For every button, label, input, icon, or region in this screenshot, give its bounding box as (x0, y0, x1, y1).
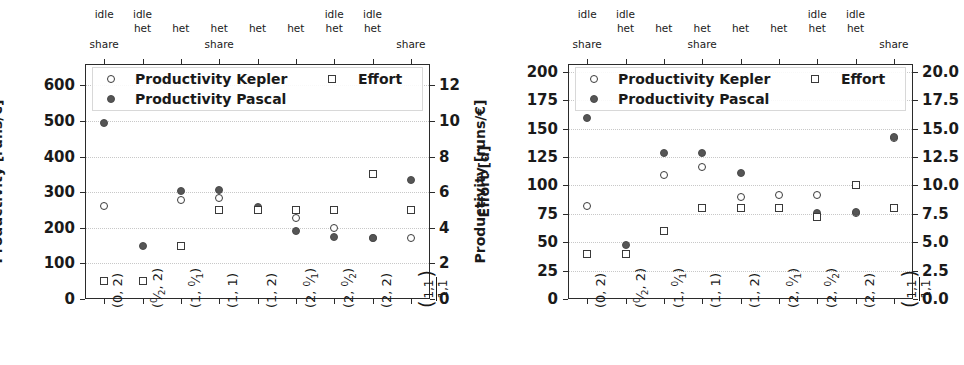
gridline (86, 192, 429, 193)
y-axis-tick (80, 121, 85, 122)
y2-axis-tick (430, 157, 435, 158)
legend-marker-kepler (107, 75, 115, 83)
top-annotation-het: het (826, 22, 886, 34)
gridline (569, 271, 912, 272)
x-axis-tick-label: (0, 2) (593, 273, 608, 308)
x-axis-tick-label: (0⁄2, 2) (632, 268, 650, 308)
marker-pascal (177, 187, 185, 195)
x-axis-tick (817, 299, 818, 304)
y2-axis-tick-label: 6 (439, 183, 449, 201)
x-axis-tick (258, 299, 259, 304)
x-axis-top-tick (219, 59, 220, 64)
x-axis-tick-label: (1, 2) (747, 273, 762, 308)
x-axis-tick (779, 299, 780, 304)
top-annotation-idle: idle (826, 8, 886, 20)
x-axis-top-tick (817, 59, 818, 64)
x-axis-tick-label: (1, 1) (708, 273, 723, 308)
x-axis-tick (143, 299, 144, 304)
y-axis-tick-label: 175 (506, 91, 558, 109)
y-axis-title: Productivity [runs/€] (0, 64, 5, 299)
y2-axis-tick (913, 72, 918, 73)
marker-effort (852, 181, 860, 189)
x-axis-top-tick (334, 59, 335, 64)
y-axis-tick-label: 100 (506, 176, 558, 194)
x-axis-tick-label: (2, 2) (379, 273, 394, 308)
top-annotation-share: share (557, 38, 617, 50)
y-axis-tick (563, 242, 568, 243)
y2-axis-tick (430, 192, 435, 193)
marker-effort (660, 227, 668, 235)
y-axis-tick-label: 200 (23, 219, 75, 237)
y2-axis-tick (913, 185, 918, 186)
marker-pascal (852, 208, 860, 216)
y-axis-tick-label: 200 (506, 63, 558, 81)
x-axis-top-tick (779, 59, 780, 64)
x-axis-top-tick (143, 59, 144, 64)
figure-root: 0100200300400500600024681012Productivity… (0, 0, 964, 365)
marker-effort (292, 206, 300, 214)
x-axis-top-tick (181, 59, 182, 64)
marker-effort (775, 204, 783, 212)
y2-axis-tick-label: 8 (439, 148, 449, 166)
x-axis-tick (626, 299, 627, 304)
legend-label-kepler: Productivity Kepler (135, 71, 288, 87)
marker-pascal (407, 176, 415, 184)
gridline (86, 121, 429, 122)
x-axis-tick (894, 299, 895, 304)
x-axis-top-tick (856, 59, 857, 64)
gridline (569, 129, 912, 130)
y2-axis-tick-label: 7.5 (922, 205, 949, 223)
x-axis-tick-label: (0, 2) (110, 273, 125, 308)
legend-marker-pascal (590, 95, 598, 103)
marker-effort (622, 250, 630, 258)
y-axis-tick-label: 0 (506, 290, 558, 308)
y-axis-tick (80, 299, 85, 300)
x-axis-tick-label: (2, 0⁄1) (785, 268, 803, 308)
marker-kepler (177, 196, 185, 204)
y2-axis-tick (913, 242, 918, 243)
top-annotation-share: share (672, 38, 732, 50)
y2-axis-tick-label: 5.0 (922, 233, 949, 251)
x-axis-tick (334, 299, 335, 304)
x-axis-tick (373, 299, 374, 304)
marker-pascal (330, 233, 338, 241)
legend-marker-kepler (590, 75, 598, 83)
x-axis-tick (587, 299, 588, 304)
marker-pascal (737, 169, 745, 177)
marker-effort (177, 242, 185, 250)
x-axis-tick-label: (1,11,1) (417, 270, 449, 308)
y2-axis-tick-label: 10.0 (922, 176, 959, 194)
y-axis-title: Productivity [runs/€] (472, 64, 488, 299)
x-axis-top-tick (626, 59, 627, 64)
marker-pascal (139, 242, 147, 250)
y-axis-tick (563, 72, 568, 73)
x-axis-tick-label: (1, 0⁄1) (670, 268, 688, 308)
y-axis-tick-label: 50 (506, 233, 558, 251)
top-annotation-het: het (343, 22, 403, 34)
x-axis-tick (219, 299, 220, 304)
marker-effort (139, 277, 147, 285)
x-axis-top-tick (296, 59, 297, 64)
x-axis-tick (702, 299, 703, 304)
y2-axis-tick (430, 85, 435, 86)
y2-axis-tick-label: 17.5 (922, 91, 959, 109)
top-annotation-idle: idle (343, 8, 403, 20)
x-axis-tick-label: (2, 0⁄2) (823, 268, 841, 308)
x-axis-tick (411, 299, 412, 304)
y2-axis-tick-label: 12.5 (922, 148, 959, 166)
legend-label-pascal: Productivity Pascal (135, 91, 286, 107)
y2-axis-tick-label: 20.0 (922, 63, 959, 81)
marker-kepler (330, 224, 338, 232)
legend-marker-effort (328, 75, 336, 83)
y-axis-tick-label: 100 (23, 254, 75, 272)
marker-effort (330, 206, 338, 214)
y-axis-tick-label: 400 (23, 148, 75, 166)
legend-label-effort: Effort (358, 71, 402, 87)
y-axis-tick-label: 300 (23, 183, 75, 201)
x-axis-top-tick (411, 59, 412, 64)
y2-axis-tick (430, 263, 435, 264)
marker-pascal (698, 149, 706, 157)
x-axis-top-tick (258, 59, 259, 64)
marker-effort (254, 206, 262, 214)
y2-axis-tick (913, 129, 918, 130)
